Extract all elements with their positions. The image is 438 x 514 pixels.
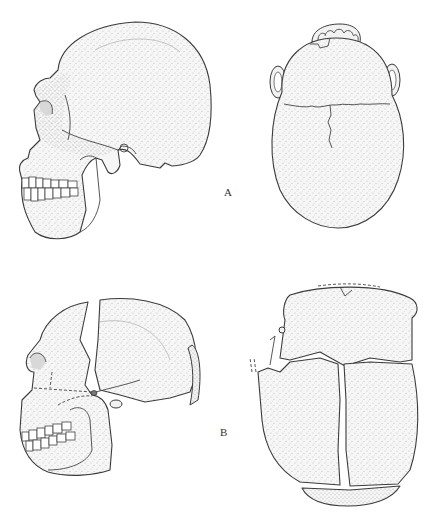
skull-a-lateral: [19, 22, 211, 239]
skull-b-superior: [250, 284, 418, 506]
panel-label-b: B: [220, 426, 227, 438]
skull-a-superior: [270, 24, 404, 228]
skull-figure: [0, 0, 438, 514]
skull-b-lateral: [20, 299, 200, 476]
panel-label-a: A: [224, 186, 232, 198]
